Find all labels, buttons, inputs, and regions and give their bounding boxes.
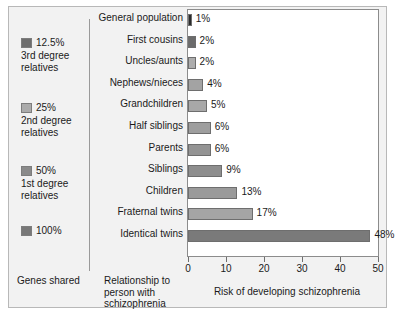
bar [188, 230, 370, 242]
legend-swatch-icon [21, 103, 32, 113]
legend-row: 25% [21, 102, 87, 114]
legend-item-0: 12.5% 3rd degree relatives [21, 37, 87, 73]
category-label: Uncles/aunts [125, 55, 183, 66]
bar-value-label: 1% [196, 13, 210, 24]
legend-percent: 50% [36, 165, 56, 177]
x-tick-label: 40 [334, 263, 345, 274]
legend-description: 3rd degree relatives [21, 50, 87, 73]
bar-value-label: 5% [211, 99, 225, 110]
category-label: Fraternal twins [117, 206, 183, 217]
bar [188, 57, 196, 69]
legend-divider [89, 19, 90, 271]
bar [188, 122, 211, 134]
legend-description: 1st degree relatives [21, 178, 87, 201]
x-tick [378, 257, 379, 262]
category-label: General population [98, 12, 183, 23]
category-label-column: General populationFirst cousinsUncles/au… [97, 9, 185, 257]
x-tick-label: 20 [258, 263, 269, 274]
bar-value-label: 17% [257, 207, 277, 218]
genes-shared-label: Genes shared [17, 275, 91, 286]
legend-swatch-icon [21, 166, 32, 176]
plot-area: 1%2%2%4%5%6%6%9%13%17%48% [187, 9, 379, 257]
x-tick [264, 257, 265, 262]
legend-description: 2nd degree relatives [21, 115, 87, 138]
bar [188, 79, 203, 91]
category-label: Half siblings [129, 120, 183, 131]
x-tick [226, 257, 227, 262]
legend-percent: 25% [36, 102, 56, 114]
bar-value-label: 48% [374, 229, 394, 240]
x-tick [302, 257, 303, 262]
bar [188, 14, 192, 26]
legend-row: 12.5% [21, 37, 87, 49]
bar-value-label: 13% [241, 186, 261, 197]
bar-value-label: 6% [215, 143, 229, 154]
x-axis: 01020304050 [188, 257, 378, 281]
category-label: Children [146, 185, 183, 196]
bar-value-label: 6% [215, 121, 229, 132]
x-tick-label: 30 [296, 263, 307, 274]
bar [188, 187, 237, 199]
x-tick [340, 257, 341, 262]
legend-swatch-icon [21, 226, 32, 236]
legend-swatch-icon [21, 38, 32, 48]
x-tick [188, 257, 189, 262]
legend-item-2: 50% 1st degree relatives [21, 165, 87, 201]
legend-row: 50% [21, 165, 87, 177]
bar-value-label: 9% [226, 164, 240, 175]
bar-value-label: 2% [200, 35, 214, 46]
legend-percent: 12.5% [36, 37, 64, 49]
x-tick-label: 50 [372, 263, 383, 274]
bar-value-label: 4% [207, 78, 221, 89]
bar [188, 144, 211, 156]
bar [188, 165, 222, 177]
bar [188, 208, 253, 220]
category-label: Grandchildren [120, 98, 183, 109]
risk-axis-label: Risk of developing schizophrenia [187, 286, 387, 297]
relationship-axis-label: Relationship to person with schizophreni… [104, 275, 184, 310]
category-label: Identical twins [120, 228, 183, 239]
x-tick-label: 10 [220, 263, 231, 274]
legend-percent: 100% [36, 225, 62, 237]
legend-row: 100% [21, 225, 87, 237]
x-tick-label: 0 [185, 263, 191, 274]
category-label: First cousins [127, 34, 183, 45]
bar [188, 36, 196, 48]
category-label: Parents [149, 142, 183, 153]
bar [188, 100, 207, 112]
legend-item-3: 100% [21, 225, 87, 238]
chart-figure: 12.5% 3rd degree relatives 25% 2nd degre… [8, 6, 387, 308]
category-label: Siblings [148, 163, 183, 174]
category-label: Nephews/nieces [110, 77, 183, 88]
bar-value-label: 2% [200, 56, 214, 67]
legend-item-1: 25% 2nd degree relatives [21, 102, 87, 138]
